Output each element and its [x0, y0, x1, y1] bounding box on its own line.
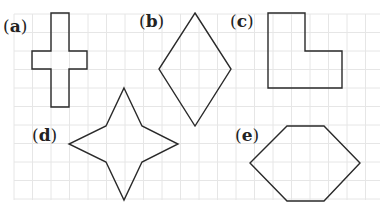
- shapes-diagram: (a)(b)(c)(d)(e): [0, 0, 386, 213]
- shape-label-a: (a): [3, 16, 27, 36]
- shape-label-e: (e): [235, 125, 259, 145]
- hexagon-polygon: [250, 126, 360, 201]
- shape-a: (a): [3, 13, 87, 107]
- shape-label-d: (d): [32, 125, 57, 145]
- shape-e: (e): [235, 125, 360, 201]
- cross-polygon: [32, 13, 87, 107]
- shape-label-c: (c): [230, 11, 254, 31]
- shape-c: (c): [230, 11, 342, 88]
- shape-label-b: (b): [139, 11, 164, 31]
- figure-canvas: (a)(b)(c)(d)(e): [0, 0, 386, 213]
